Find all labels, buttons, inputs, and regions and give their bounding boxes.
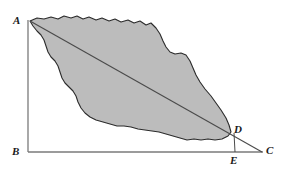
geometry-figure: A B C D E <box>0 0 281 178</box>
vertex-label-c: C <box>266 145 273 156</box>
vertex-label-b: B <box>12 146 19 157</box>
vertex-label-a: A <box>13 15 20 26</box>
vertex-label-d: D <box>234 124 242 135</box>
segment-de-perpendicular <box>234 133 235 152</box>
vertex-label-e: E <box>230 155 237 166</box>
figure-canvas <box>0 0 281 178</box>
